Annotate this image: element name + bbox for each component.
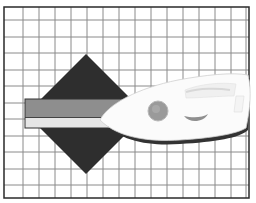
illustration-canvas bbox=[0, 0, 256, 203]
